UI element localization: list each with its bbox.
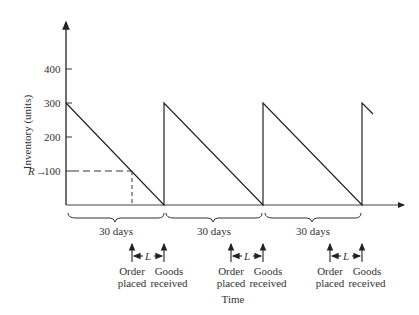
lead-time-2: L	[244, 251, 250, 262]
order-placed-3a: Order	[310, 266, 350, 277]
order-placed-1b: placed	[112, 278, 152, 289]
y-tick-400: 400	[44, 64, 61, 75]
inventory-line	[66, 103, 373, 205]
lead-time-3: L	[343, 251, 349, 262]
lead-time-1: L	[145, 251, 151, 262]
order-placed-2a: Order	[211, 266, 251, 277]
goods-received-1b: received	[149, 278, 189, 289]
cycle-label-3: 30 days	[296, 226, 330, 237]
cycle-label-2: 30 days	[197, 226, 231, 237]
x-axis-label: Time	[213, 294, 253, 305]
reorder-point-label: R	[28, 166, 35, 177]
goods-received-3a: Goods	[347, 266, 387, 277]
goods-received-2a: Goods	[248, 266, 288, 277]
goods-received-3b: received	[347, 278, 387, 289]
goods-received-1a: Goods	[149, 266, 189, 277]
y-tick-200: 200	[44, 132, 61, 143]
cycle-label-1: 30 days	[99, 226, 133, 237]
goods-received-2b: received	[248, 278, 288, 289]
order-placed-3b: placed	[310, 278, 350, 289]
order-placed-2b: placed	[211, 278, 251, 289]
y-axis-label: Inventory (units)	[21, 67, 33, 197]
order-placed-1a: Order	[112, 266, 152, 277]
y-tick-300: 300	[44, 98, 61, 109]
